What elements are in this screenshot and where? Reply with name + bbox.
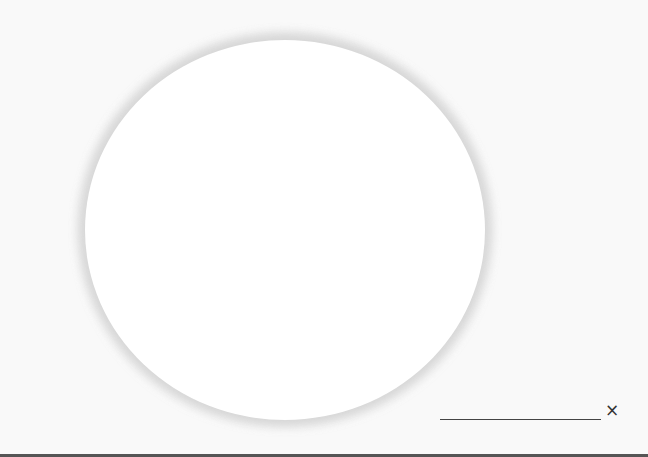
text-input-underline[interactable] [440, 419, 601, 420]
close-icon[interactable]: × [605, 402, 619, 418]
text-input[interactable] [440, 397, 601, 419]
canvas-stage: × [0, 0, 648, 457]
circle-shape [85, 40, 485, 420]
